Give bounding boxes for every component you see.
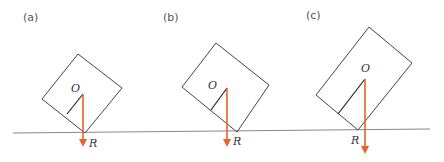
panel-label: (c) bbox=[306, 9, 321, 22]
center-label: O bbox=[361, 62, 370, 75]
contact-label: R bbox=[88, 137, 97, 150]
tilted-box bbox=[316, 27, 412, 130]
height-line bbox=[67, 94, 83, 114]
panel-label: (a) bbox=[23, 11, 38, 24]
height-line bbox=[338, 79, 365, 114]
center-label: O bbox=[71, 82, 80, 95]
contact-label: R bbox=[232, 135, 241, 148]
panel-a: (a) O R bbox=[23, 11, 122, 150]
diagram-canvas: (a) O R (b) O R (c) O R bbox=[0, 0, 444, 162]
ground-line bbox=[13, 129, 430, 133]
center-label: O bbox=[208, 79, 217, 92]
tilted-box bbox=[182, 43, 269, 132]
contact-label: R bbox=[350, 134, 359, 147]
panel-b: (b) O R bbox=[163, 11, 269, 148]
tilted-box bbox=[42, 54, 122, 133]
panel-label: (b) bbox=[163, 11, 179, 24]
